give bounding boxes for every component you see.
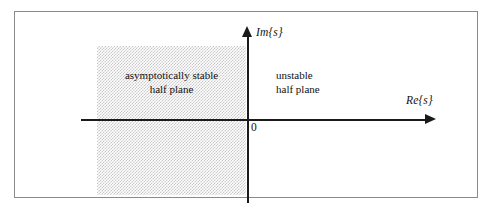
stable-region-caption: asymptotically stable half plane — [97, 69, 246, 96]
imaginary-axis-label: Im{s} — [256, 26, 283, 38]
imaginary-axis-line — [247, 36, 249, 203]
real-axis-arrowhead-icon — [425, 114, 436, 124]
s-plane-stability-diagram: Im{s} Re{s} 0 asymptotically stable half… — [0, 0, 494, 218]
origin-label: 0 — [251, 121, 257, 133]
figure-frame: Im{s} Re{s} 0 asymptotically stable half… — [14, 11, 478, 198]
unstable-region-caption: unstable half plane — [276, 69, 406, 96]
real-axis-label: Re{s} — [406, 94, 433, 106]
imaginary-axis-arrowhead-icon — [242, 26, 252, 37]
